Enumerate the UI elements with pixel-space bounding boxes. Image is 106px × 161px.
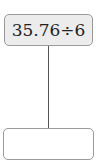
answer-box[interactable] (3, 128, 94, 160)
expression-text: 35.76÷6 (12, 20, 86, 40)
connector-line (48, 46, 49, 129)
expression-box: 35.76÷6 (4, 14, 93, 46)
